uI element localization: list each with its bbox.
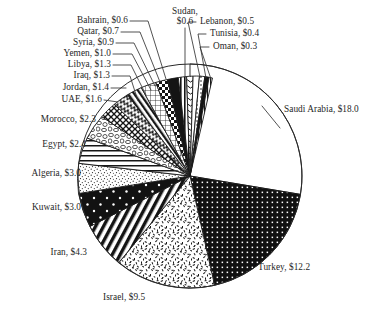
label-iran: Iran, $4.3 <box>0 247 87 258</box>
leader-yemen <box>113 54 151 90</box>
label-saudi-arabia: Saudi Arabia, $18.0 <box>284 104 359 115</box>
label-morocco: Morocco, $2.3 <box>0 114 96 125</box>
label-qatar: Qatar, $0.7 <box>0 26 119 37</box>
leader-bahrain <box>130 21 166 79</box>
label-lebanon: Lebanon, $0.5 <box>200 16 254 27</box>
leader-syria <box>116 43 155 86</box>
label-libya: Libya, $1.3 <box>0 59 111 70</box>
label-egypt: Egypt, $2.4 <box>0 139 86 150</box>
label-algeria: Algeria, $3.0 <box>0 168 81 179</box>
label-jordan: Jordan, $1.4 <box>0 82 109 93</box>
label-syria: Syria, $0.9 <box>0 37 114 48</box>
label-yemen: Yemen, $1.0 <box>0 48 111 59</box>
label-tunisia: Tunisia, $0.4 <box>210 28 259 39</box>
label-kuwait: Kuwait, $3.0 <box>0 202 81 213</box>
label-bahrain: Bahrain, $0.6 <box>0 15 128 26</box>
label-iraq: Iraq, $1.3 <box>0 70 110 81</box>
label-israel: Israel, $9.5 <box>103 292 145 303</box>
pie-chart-figure: Bahrain, $0.6 Qatar, $0.7 Syria, $0.9 Ye… <box>0 0 377 313</box>
label-turkey: Turkey, $12.2 <box>258 262 310 273</box>
label-uae: UAE, $1.6 <box>0 94 102 105</box>
label-oman: Oman, $0.3 <box>213 41 257 52</box>
label-sudan-line1: Sudan, <box>160 6 210 16</box>
